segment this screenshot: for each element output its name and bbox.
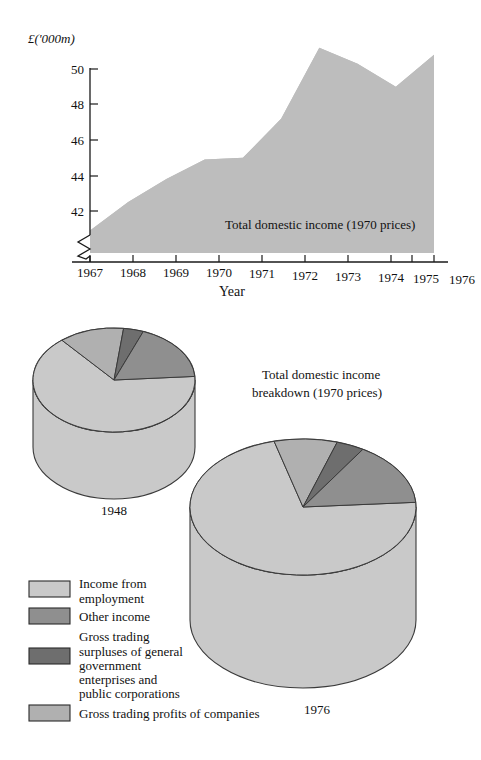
x-tick-label-1969: 1969 (163, 265, 189, 280)
legend-label-gross-trading-surpluses-line-3: government (79, 658, 141, 673)
x-tick-label-1976: 1976 (449, 272, 476, 287)
legend-item-gross-trading-surpluses[interactable]: Gross trading surpluses of general gover… (29, 629, 183, 701)
legend-swatch-gross-trading-profits (29, 705, 70, 721)
legend-swatch-other-income (29, 608, 70, 624)
x-tick-label-1970: 1970 (206, 265, 232, 280)
x-tick-label-1972: 1972 (292, 268, 318, 283)
legend-item-income-from-employment[interactable]: Income from employment (29, 576, 147, 606)
x-tick-label-1974: 1974 (378, 270, 405, 285)
x-tick-label-1971: 1971 (249, 266, 275, 281)
legend-label-income-from-employment-line-1: Income from (79, 576, 147, 591)
legend-swatch-income-from-employment (29, 581, 70, 597)
y-tick-label-42: 42 (71, 204, 84, 219)
y-tick-label-44: 44 (71, 169, 85, 184)
y-tick-label-46: 46 (71, 133, 85, 148)
x-axis-ticks (90, 255, 434, 262)
y-axis-unit-label: £('000m) (28, 31, 75, 46)
pie-chart-1976: 1976 (190, 439, 416, 717)
pie-1948-year-label: 1948 (101, 503, 127, 518)
legend-item-gross-trading-profits[interactable]: Gross trading profits of companies (29, 705, 260, 721)
y-tick-label-50: 50 (71, 62, 84, 77)
legend-label-other-income: Other income (79, 609, 150, 624)
legend-label-gross-trading-surpluses-line-1: Gross trading (79, 629, 150, 644)
legend-label-gross-trading-surpluses-line-2: surpluses of general (79, 644, 183, 659)
x-axis-name-label: Year (219, 284, 245, 299)
y-tick-label-48: 48 (71, 97, 84, 112)
x-tick-label-1968: 1968 (120, 265, 146, 280)
legend-label-gross-trading-surpluses-line-5: public corporations (79, 686, 180, 701)
legend-label-gross-trading-profits: Gross trading profits of companies (79, 706, 260, 721)
figure-svg: 50 48 46 44 42 £('000m) 1967 (0, 0, 481, 760)
legend-item-other-income[interactable]: Other income (29, 608, 150, 624)
pie-1976-year-label: 1976 (304, 702, 331, 717)
legend-label-income-from-employment-line-2: employment (79, 591, 144, 606)
y-axis-ticks (90, 69, 98, 211)
x-tick-label-1967: 1967 (77, 265, 104, 280)
pies-title-line-2: breakdown (1970 prices) (252, 385, 382, 400)
y-axis-break-icon (78, 235, 90, 259)
x-tick-label-1975: 1975 (413, 271, 439, 286)
area-series-annotation: Total domestic income (1970 prices) (225, 217, 415, 232)
pies-title-line-1: Total domestic income (262, 367, 380, 382)
pie-chart-1948: 1948 (33, 328, 195, 518)
legend-swatch-gross-trading-surpluses (29, 648, 70, 664)
area-chart: 50 48 46 44 42 £('000m) 1967 (28, 31, 476, 299)
x-tick-label-1973: 1973 (335, 269, 361, 284)
figure-canvas: 50 48 46 44 42 £('000m) 1967 (0, 0, 481, 760)
pies-title: Total domestic income breakdown (1970 pr… (252, 367, 382, 400)
legend-label-gross-trading-surpluses-line-4: enterprises and (79, 672, 158, 687)
